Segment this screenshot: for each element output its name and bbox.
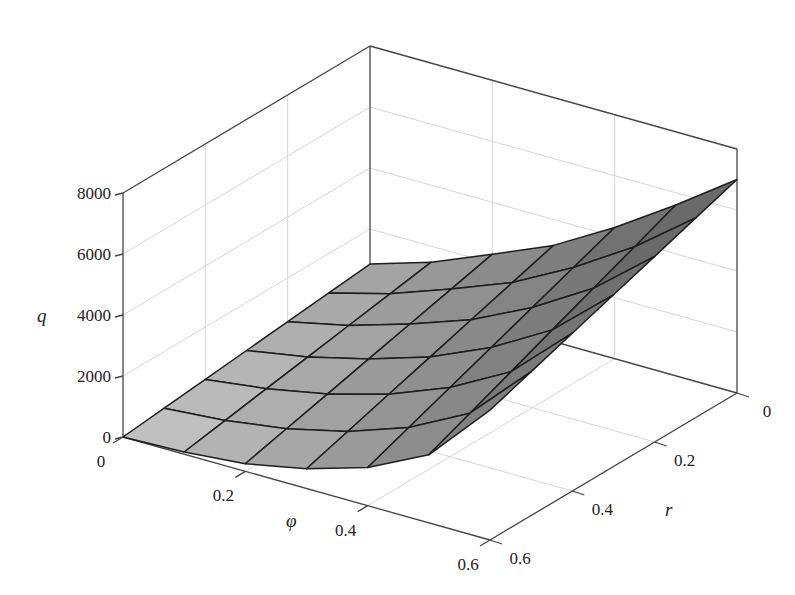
y-axis-title: r <box>665 499 673 520</box>
y-tick-label: 0 <box>763 402 772 421</box>
x-tick-label: 0.6 <box>457 555 478 574</box>
y-tick <box>655 442 667 446</box>
z-tick <box>115 376 123 378</box>
y-tick <box>490 540 502 544</box>
z-tick <box>115 254 123 256</box>
z-tick <box>115 193 123 195</box>
y-tick-label: 0.4 <box>592 500 614 519</box>
z-tick-label: 8000 <box>77 184 111 203</box>
x-tick-label: 0.4 <box>335 521 357 540</box>
z-axis-title: q <box>37 305 47 326</box>
x-axis-title: φ <box>286 510 297 531</box>
x-tick <box>235 471 245 477</box>
z-tick <box>115 315 123 317</box>
surface-mesh <box>123 180 737 469</box>
z-tick-label: 4000 <box>77 306 111 325</box>
surface-patch <box>635 180 737 247</box>
y-tick-label: 0.6 <box>509 549 530 568</box>
surface-plot: 0200040006000800000.20.40.600.20.40.6 q … <box>0 0 795 595</box>
x-tick <box>358 506 368 512</box>
y-tick <box>737 393 749 397</box>
z-tick-label: 2000 <box>77 367 111 386</box>
x-tick-label: 0 <box>97 452 106 471</box>
x-tick <box>480 540 490 546</box>
y-axis-line <box>490 393 737 540</box>
z-tick-label: 6000 <box>77 245 111 264</box>
x-tick-label: 0.2 <box>213 486 234 505</box>
z-tick-label: 0 <box>103 428 112 447</box>
box-top-right <box>370 46 737 149</box>
z-gridline <box>370 107 737 210</box>
z-gridline <box>123 107 370 254</box>
y-tick <box>572 491 584 495</box>
box-top-left <box>123 46 370 193</box>
y-tick-label: 0.2 <box>674 451 695 470</box>
